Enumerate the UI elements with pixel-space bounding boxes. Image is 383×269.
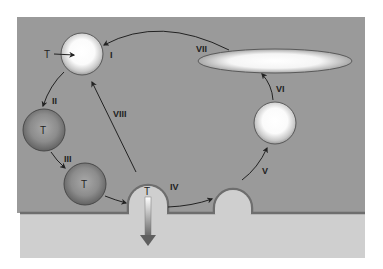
label-stage-3: III	[64, 154, 72, 164]
sphere-stage-6	[254, 102, 296, 144]
t-entry-label: T	[44, 49, 50, 60]
exocytosis-arrow-shaft	[145, 197, 151, 235]
t-label-stage-2: T	[40, 125, 46, 136]
label-stage-5: V	[262, 166, 268, 176]
label-stage-4: IV	[170, 182, 179, 192]
label-stage-6: VI	[276, 84, 285, 94]
t-label-bud: T	[144, 186, 150, 197]
sphere-stage-1	[61, 33, 103, 75]
flat-cisterna	[198, 49, 352, 73]
cycle-diagram: T I T II T III T IV V VI VII VIII	[0, 0, 383, 269]
lower-compartment	[20, 213, 365, 258]
label-stage-1: I	[110, 50, 113, 60]
label-stage-7: VII	[196, 44, 207, 54]
t-label-stage-3: T	[81, 179, 87, 190]
label-stage-8: VIII	[113, 109, 127, 119]
label-stage-2: II	[52, 96, 57, 106]
